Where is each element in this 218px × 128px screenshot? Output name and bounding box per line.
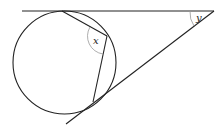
angle-y-arc [190,11,194,26]
angle-y-label: y [195,12,202,23]
geometry-figure: x y [0,0,218,128]
circle [13,11,116,114]
angle-x-label: x [93,35,99,46]
lower-tangent-line [66,11,214,124]
